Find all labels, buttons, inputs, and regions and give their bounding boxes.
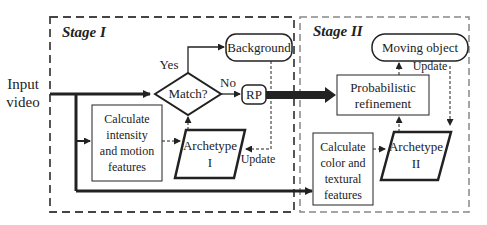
- refinement-line1: Probabilistic: [350, 80, 416, 95]
- stage2-title: Stage II: [313, 23, 364, 39]
- update2-label: Update: [413, 59, 448, 73]
- calc2-line2: color and: [321, 156, 366, 170]
- stage1-title: Stage I: [62, 24, 107, 40]
- calc1-line1: Calculate: [104, 112, 149, 126]
- rp-to-refinement-arrow: [266, 87, 336, 103]
- background-label: Background: [227, 40, 291, 55]
- calc2-line4: features: [324, 188, 362, 202]
- calc1-line2: intensity: [106, 128, 147, 142]
- flowchart: Stage I Stage II Input video Match? Yes …: [0, 0, 487, 225]
- refinement-line2: refinement: [355, 96, 412, 111]
- rp-label: RP: [246, 87, 262, 102]
- calc1-line3: and motion: [100, 144, 154, 158]
- archetype1-line1: Archetype: [183, 138, 237, 153]
- calc1-line4: features: [108, 160, 146, 174]
- yes-arrow: [188, 47, 224, 73]
- archetype2-line1: Archetype: [389, 139, 443, 154]
- archetype1-line2: I: [208, 155, 212, 170]
- calc2-line1: Calculate: [320, 140, 365, 154]
- update1-arrow: [246, 61, 271, 149]
- no-label: No: [220, 75, 236, 90]
- update1-label: Update: [241, 152, 276, 166]
- calc2-line3: textural: [325, 172, 362, 186]
- match-label: Match?: [169, 86, 208, 101]
- moving-object-label: Moving object: [382, 40, 459, 55]
- yes-label: Yes: [160, 57, 179, 72]
- input-label-line2: video: [6, 94, 39, 110]
- input-label-line1: Input: [7, 76, 39, 92]
- archetype2-line2: II: [412, 156, 421, 171]
